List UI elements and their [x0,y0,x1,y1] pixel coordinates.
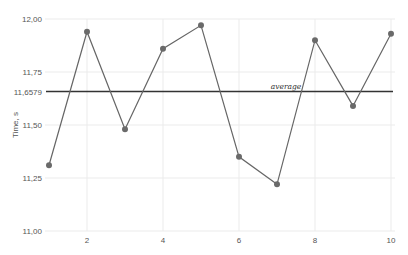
data-series [46,22,394,187]
line-chart: 11,0011,2511,5011,7512,00 246810 Time, s… [0,0,408,255]
y-axis-label: Time, s [11,112,20,138]
average-label: average [271,82,302,91]
y-tick-label: 11,00 [23,227,43,236]
y-tick-label: 11,25 [23,174,43,183]
data-point [388,31,394,37]
x-tick-label: 10 [387,236,396,245]
x-tick-label: 4 [161,236,166,245]
data-point [274,181,280,187]
data-point [46,162,52,168]
grid-lines [45,19,395,231]
y-tick-label: 12,00 [22,15,43,24]
data-point [160,46,166,52]
x-tick-label: 6 [237,236,242,245]
x-tick-label: 8 [313,236,318,245]
data-point [350,103,356,109]
data-point [84,29,90,35]
series-line [49,25,391,184]
y-axis-ticks: 11,0011,2511,5011,7512,00 [22,15,43,236]
data-point [122,126,128,132]
x-tick-label: 2 [85,236,90,245]
average-value-label: 11,6579 [14,88,43,97]
data-point [312,37,318,43]
y-tick-label: 11,75 [23,68,43,77]
data-point [236,154,242,160]
y-tick-label: 11,50 [23,121,43,130]
x-axis-ticks: 246810 [85,236,396,245]
data-point [198,22,204,28]
